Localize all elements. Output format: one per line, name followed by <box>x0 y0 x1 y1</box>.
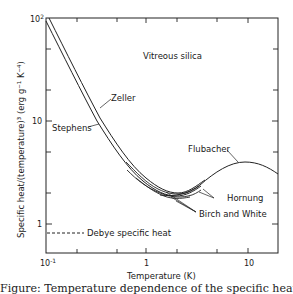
y-tick-10: 10 <box>32 117 42 126</box>
figure-caption: Figure: Temperature dependence of the sp… <box>0 283 293 294</box>
stephens-curve <box>46 21 201 196</box>
x-axis-label: Temperature (K) <box>126 271 196 281</box>
zeller-label: Zeller <box>111 93 136 103</box>
debye-label: Debye specific heat <box>87 228 172 238</box>
x-ticks-top <box>77 18 248 23</box>
x-ticks-bottom <box>77 248 248 253</box>
x-tick-0.1: 10-1 <box>40 257 56 268</box>
x-tick-10: 10 <box>244 259 254 268</box>
flubacher-curve <box>160 162 278 196</box>
stephens-label: Stephens <box>52 123 92 133</box>
y-ticks-left <box>46 49 52 224</box>
x-tick-1: 1 <box>144 259 149 268</box>
y-tick-1: 1 <box>37 220 42 229</box>
y-tick-100: 102 <box>30 13 44 24</box>
y-ticks-right <box>272 49 278 224</box>
hornung-label: Hornung <box>227 193 264 203</box>
zeller-curve <box>49 18 205 193</box>
birch-white-label: Birch and White <box>199 209 267 219</box>
flubacher-label: Flubacher <box>188 144 231 154</box>
specific-heat-chart: 102 10 1 10-1 1 10 Temperature (K) Speci… <box>0 0 293 294</box>
chart-title-annotation: Vitreous silica <box>143 51 202 61</box>
y-axis-label: Specific heat/(temperature)³ (erg g⁻¹ K⁻… <box>16 61 26 238</box>
